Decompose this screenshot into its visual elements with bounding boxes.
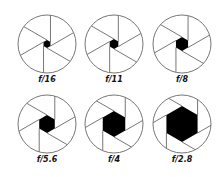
aperture-f-4: f/4 xyxy=(85,95,143,164)
blade-edge xyxy=(50,33,73,46)
aperture-opening xyxy=(39,115,55,133)
f-stop-label: f/8 xyxy=(176,75,188,84)
f-stop-label: f/11 xyxy=(105,75,123,84)
f-stop-label: f/16 xyxy=(38,75,56,84)
blade-edge xyxy=(154,41,176,53)
blade-edge xyxy=(118,33,141,46)
blade-edge xyxy=(47,48,70,61)
aperture-f-5-6: f/5.6 xyxy=(18,95,76,164)
aperture-f-11: f/11 xyxy=(85,15,143,84)
blade-edge xyxy=(19,120,39,132)
blade-edge xyxy=(114,137,132,147)
aperture-f-2-8: f/2.8 xyxy=(153,95,211,164)
f-stop-label: f/4 xyxy=(108,155,120,164)
blade-edge xyxy=(153,115,166,123)
blade-edge xyxy=(114,49,137,62)
blade-edge xyxy=(27,103,47,115)
blade-edge xyxy=(160,25,182,37)
blade-edge xyxy=(20,42,43,55)
blade-edge xyxy=(182,51,204,63)
blade-edge xyxy=(47,133,67,145)
blade-edge xyxy=(182,142,195,150)
aperture-opening xyxy=(103,111,126,137)
blade-edge xyxy=(85,118,103,128)
f-stop-label: f/2.8 xyxy=(172,155,193,164)
blade-edge xyxy=(87,42,110,55)
blade-edge xyxy=(24,27,47,40)
blade-edge xyxy=(169,98,182,106)
blade-edge xyxy=(198,125,211,133)
blade-edge xyxy=(125,120,143,130)
aperture-opening xyxy=(176,37,188,51)
aperture-opening xyxy=(44,40,51,48)
aperture-f-16: f/16 xyxy=(18,15,76,84)
aperture-f-8: f/8 xyxy=(153,15,211,84)
f-stop-label: f/5.6 xyxy=(37,155,58,164)
blade-edge xyxy=(91,26,114,39)
blade-edge xyxy=(55,117,75,129)
blade-edge xyxy=(96,101,114,111)
aperture-opening xyxy=(110,39,119,49)
aperture-diagram: f/16f/11f/8f/5.6f/4f/2.8 xyxy=(0,0,224,177)
aperture-opening xyxy=(166,106,197,142)
blade-edge xyxy=(188,35,210,47)
